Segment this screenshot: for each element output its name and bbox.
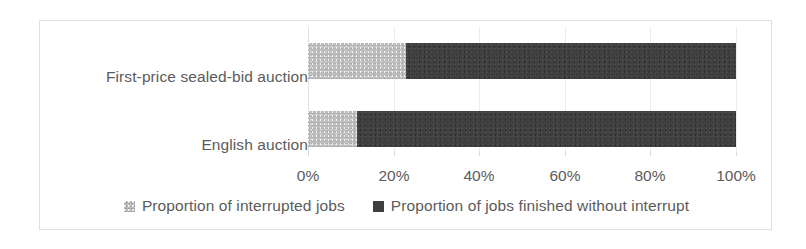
x-tick-label-100: 100% xyxy=(696,167,776,185)
legend-item-interrupted-jobs[interactable]: Proportion of interrupted jobs xyxy=(124,197,345,215)
bar-segment-interrupted-jobs[interactable] xyxy=(308,43,406,79)
legend-swatch-icon xyxy=(373,201,384,212)
chart-legend: Proportion of interrupted jobs Proportio… xyxy=(40,193,773,219)
bar-segment-finished-without-interrupt[interactable] xyxy=(357,111,736,147)
legend-label: Proportion of jobs finished without inte… xyxy=(391,197,689,215)
bar-segment-interrupted-jobs[interactable] xyxy=(308,111,357,147)
gridline-100 xyxy=(736,27,737,151)
x-tick-label-0: 0% xyxy=(268,167,348,185)
tickmark-40 xyxy=(479,151,480,156)
bar-row-first-price-sealed-bid-auction xyxy=(308,43,736,79)
bar-row-english-auction xyxy=(308,111,736,147)
x-tick-label-60: 60% xyxy=(525,167,605,185)
plot-area: First-price sealed-bid auction English a… xyxy=(40,21,773,164)
tickmark-0 xyxy=(308,151,309,156)
legend-item-finished-without-interrupt[interactable]: Proportion of jobs finished without inte… xyxy=(373,197,689,215)
tickmark-60 xyxy=(565,151,566,156)
tickmark-20 xyxy=(394,151,395,156)
tickmark-80 xyxy=(650,151,651,156)
x-tick-label-80: 80% xyxy=(610,167,690,185)
bar-segment-finished-without-interrupt[interactable] xyxy=(406,43,736,79)
legend-swatch-icon xyxy=(124,201,135,212)
x-tick-label-40: 40% xyxy=(439,167,519,185)
category-label-first-price-sealed-bid-auction: First-price sealed-bid auction xyxy=(48,68,308,86)
chart-figure: First-price sealed-bid auction English a… xyxy=(39,20,772,230)
category-label-english-auction: English auction xyxy=(48,136,308,154)
x-tick-label-20: 20% xyxy=(354,167,434,185)
legend-label: Proportion of interrupted jobs xyxy=(142,197,345,215)
tickmark-100 xyxy=(736,151,737,156)
